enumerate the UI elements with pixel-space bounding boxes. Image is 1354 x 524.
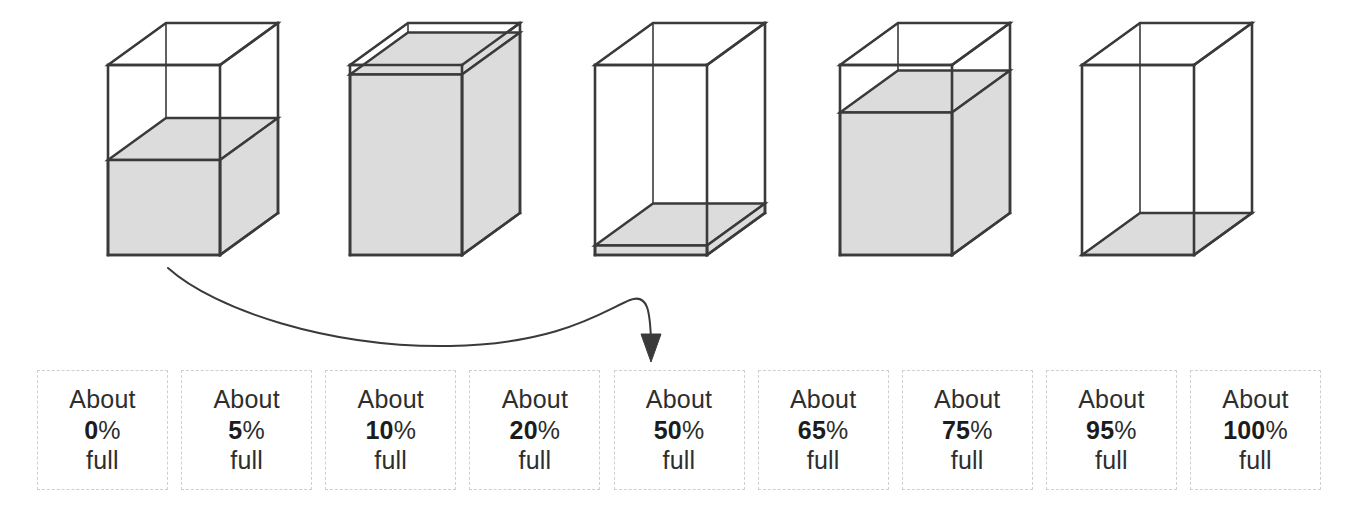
- box-1: [108, 23, 278, 255]
- card-prefix-label: About: [358, 384, 424, 415]
- card-percent-number: 75: [942, 416, 970, 444]
- card-percent-value: 10%: [365, 415, 416, 446]
- card-suffix-label: full: [807, 445, 840, 476]
- arrow-curve: [168, 268, 651, 346]
- card-percent-number: 50: [654, 416, 682, 444]
- percent-symbol: %: [98, 416, 120, 444]
- card-percent-value: 75%: [942, 415, 993, 446]
- card-prefix-label: About: [790, 384, 856, 415]
- liquid-front-face: [350, 75, 462, 256]
- card-prefix-label: About: [646, 384, 712, 415]
- card-suffix-label: full: [1239, 445, 1272, 476]
- card-percent-number: 10: [365, 416, 393, 444]
- percent-symbol: %: [242, 416, 264, 444]
- percent-symbol: %: [826, 416, 848, 444]
- card-prefix-label: About: [69, 384, 135, 415]
- card-percent-value: 95%: [1086, 415, 1137, 446]
- card-percent-value: 65%: [798, 415, 849, 446]
- liquid-front-face: [840, 113, 952, 256]
- percent-symbol: %: [1265, 416, 1287, 444]
- card-prefix-label: About: [502, 384, 568, 415]
- box-top-opening: [1082, 23, 1252, 65]
- percent-card-0[interactable]: About0%full: [37, 370, 168, 490]
- card-percent-number: 100: [1223, 416, 1265, 444]
- card-suffix-label: full: [951, 445, 984, 476]
- box-top-opening: [595, 23, 765, 65]
- box-top-right-edge: [952, 23, 1010, 65]
- box-top-opening: [108, 23, 278, 65]
- card-prefix-label: About: [1222, 384, 1288, 415]
- percent-card-95[interactable]: About95%full: [1046, 370, 1177, 490]
- pointer-arrow: [0, 240, 1354, 370]
- card-suffix-label: full: [518, 445, 551, 476]
- box-top-right-edge: [707, 23, 765, 65]
- percent-card-100[interactable]: About100%full: [1190, 370, 1321, 490]
- card-percent-number: 95: [1086, 416, 1114, 444]
- box-2: [350, 23, 520, 255]
- box-3: [595, 23, 765, 255]
- card-suffix-label: full: [86, 445, 119, 476]
- percent-symbol: %: [538, 416, 560, 444]
- percent-symbol: %: [970, 416, 992, 444]
- card-percent-value: 50%: [654, 415, 705, 446]
- arrow-head: [641, 334, 661, 362]
- percent-card-5[interactable]: About5%full: [181, 370, 312, 490]
- card-suffix-label: full: [663, 445, 696, 476]
- percent-card-10[interactable]: About10%full: [325, 370, 456, 490]
- percent-card-50[interactable]: About50%full: [614, 370, 745, 490]
- box-top-right-edge: [220, 23, 278, 65]
- percent-symbol: %: [1114, 416, 1136, 444]
- box-top-opening: [840, 23, 1010, 65]
- percent-card-20[interactable]: About20%full: [469, 370, 600, 490]
- percent-card-75[interactable]: About75%full: [902, 370, 1033, 490]
- card-percent-number: 65: [798, 416, 826, 444]
- percent-symbol: %: [682, 416, 704, 444]
- card-percent-number: 0: [84, 416, 98, 444]
- card-suffix-label: full: [374, 445, 407, 476]
- card-percent-value: 5%: [228, 415, 265, 446]
- card-percent-value: 0%: [84, 415, 121, 446]
- card-percent-value: 100%: [1223, 415, 1288, 446]
- box-4: [840, 23, 1010, 255]
- card-prefix-label: About: [934, 384, 1000, 415]
- card-suffix-label: full: [1095, 445, 1128, 476]
- card-prefix-label: About: [213, 384, 279, 415]
- card-prefix-label: About: [1078, 384, 1144, 415]
- percent-card-65[interactable]: About65%full: [758, 370, 889, 490]
- illustration-stage: About0%fullAbout5%fullAbout10%fullAbout2…: [0, 0, 1354, 524]
- box-top-right-edge: [1194, 23, 1252, 65]
- percent-cards-row: About0%fullAbout5%fullAbout10%fullAbout2…: [37, 370, 1321, 490]
- percent-symbol: %: [394, 416, 416, 444]
- card-suffix-label: full: [230, 445, 263, 476]
- card-percent-number: 20: [510, 416, 538, 444]
- box-5: [1082, 23, 1252, 255]
- card-percent-value: 20%: [510, 415, 561, 446]
- card-percent-number: 5: [228, 416, 242, 444]
